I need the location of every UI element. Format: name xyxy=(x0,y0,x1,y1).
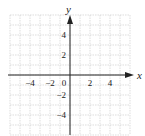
y-axis-label: y xyxy=(65,3,71,15)
x-tick-label: 4 xyxy=(108,78,113,88)
y-tick-label: −4 xyxy=(56,110,66,120)
coordinate-plane: x y −4 −2 0 2 4 4 2 −2 −4 xyxy=(0,0,145,136)
x-tick-label: −4 xyxy=(25,78,35,88)
y-tick-label: 4 xyxy=(62,30,67,40)
x-tick-label: −2 xyxy=(45,78,55,88)
y-axis-arrow-icon xyxy=(67,15,73,24)
y-tick-label: −2 xyxy=(56,90,66,100)
x-axis-arrow-icon xyxy=(125,72,134,78)
x-axis-label: x xyxy=(136,69,142,81)
x-tick-label: 2 xyxy=(88,78,93,88)
y-tick-label: 2 xyxy=(62,50,67,60)
origin-label: 0 xyxy=(62,78,67,88)
